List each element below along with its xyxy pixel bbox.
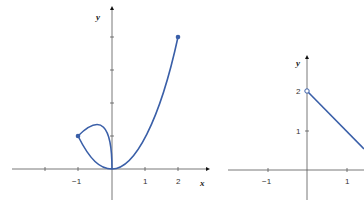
- plot1-endpoint-right: [176, 35, 181, 40]
- figure: y x −1 1 2 y 2 1 −1 1: [0, 0, 364, 203]
- plot2-xtick-1: 1: [345, 177, 350, 186]
- plot1-curve: [78, 37, 178, 169]
- plot1-x-label: x: [199, 178, 205, 188]
- plot1-y-label: y: [95, 12, 101, 22]
- plot-2: y 2 1 −1 1: [228, 57, 364, 200]
- plot2-ytick-1: 1: [296, 127, 301, 136]
- plot2-y-label: y: [295, 58, 301, 68]
- plot1-xtick-neg1: −1: [72, 177, 82, 186]
- plot2-line: [308, 92, 364, 149]
- plot1-xtick-2: 2: [176, 177, 181, 186]
- plot2-open-endpoint: [305, 89, 309, 93]
- plot2-xtick-neg1: −1: [262, 177, 272, 186]
- plot-1: y x −1 1 2: [12, 8, 208, 200]
- plot2-ytick-2: 2: [296, 87, 301, 96]
- plot1-endpoint-left: [76, 134, 81, 139]
- plot1-xtick-1: 1: [143, 177, 148, 186]
